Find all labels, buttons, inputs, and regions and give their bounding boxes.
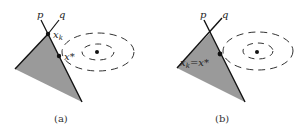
panel-a: p q xk x* (a) [15,9,134,124]
label-p: p [37,9,44,20]
label-p: p [200,9,207,20]
caption-b: (b) [215,113,229,124]
minimum-point [95,50,99,54]
feasible-region [15,34,82,102]
point-xstar [57,54,61,58]
label-q: q [222,9,228,20]
label-xk: xk [53,29,63,42]
line-p [41,20,48,34]
label-q: q [59,9,65,20]
point-xk-xstar [218,52,223,57]
caption-a: (a) [54,113,68,124]
point-xk [46,32,50,36]
minimum-point [255,50,259,54]
label-xstar: x* [64,51,75,62]
figure: p q xk x* (a) p q xk=x* (b) [0,0,305,133]
panel-b: p q xk=x* (b) [177,9,293,124]
